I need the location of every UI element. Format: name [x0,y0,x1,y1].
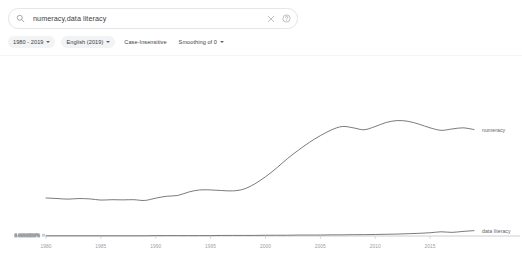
corpus-chip[interactable]: English (2019) [61,36,115,48]
series-label[interactable]: data literacy [482,228,511,234]
date-range-chip[interactable]: 1980 - 2019 [8,36,55,48]
close-icon[interactable] [267,15,275,23]
search-icon [16,14,25,23]
search-input[interactable] [33,14,267,24]
corpus-label: English (2019) [66,36,103,48]
x-axis-labels: 19801985199019952000200520102015 [40,244,435,249]
x-tick-marks [46,236,430,239]
chart-canvas: 0.0000900%0.0000800%0.0000700%0.0000600%… [0,58,522,261]
x-tick-label: 1980 [40,244,51,249]
x-tick-label: 1990 [150,244,161,249]
x-tick-label: 2000 [260,244,271,249]
search-bar[interactable] [8,8,298,29]
header-divider [0,55,522,56]
series-lines [46,121,474,236]
chevron-down-icon [46,41,50,43]
help-circle-icon[interactable] [282,14,291,23]
x-tick-label: 2015 [425,244,436,249]
series-line[interactable] [46,231,474,236]
ngram-chart[interactable]: 0.0000900%0.0000800%0.0000700%0.0000600%… [0,58,522,261]
series-labels: numeracydata literacy [482,127,511,234]
ngram-viewer-page: 1980 - 2019 English (2019) Case-Insensit… [0,0,522,261]
chevron-down-icon [220,41,224,43]
date-range-label: 1980 - 2019 [13,36,43,48]
case-sensitivity-chip[interactable]: Case-Insensitive [121,36,169,48]
x-tick-label: 1985 [95,244,106,249]
chevron-down-icon [106,41,110,43]
x-tick-label: 2010 [370,244,381,249]
x-tick-label: 1995 [205,244,216,249]
y-axis-labels: 0.0000900%0.0000800%0.0000700%0.0000600%… [14,232,40,239]
smoothing-chip[interactable]: Smoothing of 0 [176,36,227,48]
y-tick-label: 0.0000000% [14,234,40,239]
smoothing-label: Smoothing of 0 [179,36,217,48]
x-tick-label: 2005 [315,244,326,249]
filter-chip-row: 1980 - 2019 English (2019) Case-Insensit… [8,36,227,48]
case-sensitivity-label: Case-Insensitive [124,36,166,48]
y-tick-marks [42,234,45,236]
series-label[interactable]: numeracy [482,127,506,133]
series-line[interactable] [46,121,474,201]
